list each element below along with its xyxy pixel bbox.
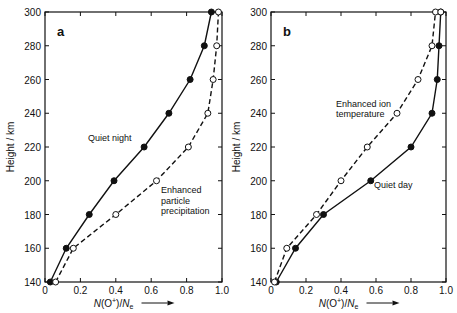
panel-a: 14016018020022024026028030000.20.40.60.8…	[5, 7, 229, 310]
x-tick-label: 0.4	[334, 285, 348, 296]
filled-marker	[187, 77, 193, 83]
open-marker	[70, 245, 76, 251]
open-marker	[185, 144, 191, 150]
open-marker	[272, 279, 278, 285]
x-tick-label: 0.2	[299, 285, 313, 296]
x-tick-label: 0.8	[404, 285, 418, 296]
annotation-enhanced-ion: Enhanced ion	[336, 99, 391, 109]
x-tick-label: 0.6	[144, 285, 158, 296]
y-axis-label: Height / km	[231, 122, 242, 173]
y-tick-label: 240	[24, 108, 41, 119]
panel-b: 14016018020022024026028030000.20.40.60.8…	[231, 7, 453, 310]
annotation-precipitation: precipitation	[161, 206, 210, 216]
filled-marker	[434, 77, 440, 83]
y-tick-label: 300	[24, 7, 41, 18]
open-marker	[113, 212, 119, 218]
arrow-head-icon	[168, 301, 175, 306]
panel-label: b	[283, 24, 291, 39]
panel-label: a	[57, 24, 65, 39]
open-marker	[205, 110, 211, 116]
y-tick-label: 280	[250, 41, 267, 52]
x-axis-label: N(O+)/Ne	[94, 297, 134, 310]
filled-marker	[293, 245, 299, 251]
x-tick-label: 0.4	[109, 285, 123, 296]
open-marker	[314, 212, 320, 218]
filled-marker	[321, 212, 327, 218]
filled-marker	[86, 212, 92, 218]
series-line	[276, 12, 441, 282]
filled-marker	[141, 144, 147, 150]
y-axis-label: Height / km	[5, 122, 16, 173]
open-marker	[214, 43, 220, 49]
series-line	[56, 12, 219, 282]
open-marker	[429, 43, 435, 49]
y-tick-label: 220	[250, 142, 267, 153]
x-tick-label: 0	[268, 285, 274, 296]
open-marker	[210, 77, 216, 83]
open-marker	[394, 110, 400, 116]
annotation-enhanced: Enhanced	[161, 185, 202, 195]
annotation-quiet-day: Quiet day	[374, 180, 413, 190]
y-tick-label: 200	[24, 176, 41, 187]
open-marker	[415, 77, 421, 83]
y-tick-label: 180	[24, 210, 41, 221]
filled-marker	[208, 9, 214, 15]
y-tick-label: 200	[250, 176, 267, 187]
y-tick-label: 180	[250, 210, 267, 221]
x-tick-label: 0.8	[180, 285, 194, 296]
chart-figure: 14016018020022024026028030000.20.40.60.8…	[0, 0, 457, 313]
open-marker	[364, 144, 370, 150]
filled-marker	[429, 110, 435, 116]
arrow-head-icon	[393, 301, 400, 306]
annotation-temperature: temperature	[336, 109, 385, 119]
filled-marker	[368, 178, 374, 184]
filled-marker	[201, 43, 207, 49]
open-marker	[53, 279, 59, 285]
open-marker	[215, 9, 221, 15]
y-tick-label: 140	[250, 277, 267, 288]
y-tick-label: 300	[250, 7, 267, 18]
filled-marker	[111, 178, 117, 184]
annotation-particle: particle	[161, 196, 190, 206]
x-axis-label: N(O+)/Ne	[319, 297, 359, 310]
x-tick-label: 0.6	[369, 285, 383, 296]
y-tick-label: 260	[24, 75, 41, 86]
filled-marker	[166, 110, 172, 116]
y-tick-label: 220	[24, 142, 41, 153]
annotation-quiet-night: Quiet night	[88, 133, 132, 143]
open-marker	[284, 245, 290, 251]
y-tick-label: 260	[250, 75, 267, 86]
y-tick-label: 160	[24, 243, 41, 254]
y-tick-label: 280	[24, 41, 41, 52]
open-marker	[154, 178, 160, 184]
y-tick-label: 240	[250, 108, 267, 119]
y-tick-label: 140	[24, 277, 41, 288]
x-tick-label: 1.0	[439, 285, 453, 296]
open-marker	[438, 9, 444, 15]
filled-marker	[63, 245, 69, 251]
y-tick-label: 160	[250, 243, 267, 254]
filled-marker	[436, 43, 442, 49]
x-tick-label: 1.0	[215, 285, 229, 296]
plot-frame	[271, 12, 446, 282]
x-tick-label: 0	[42, 285, 48, 296]
x-tick-label: 0.2	[73, 285, 87, 296]
open-marker	[338, 178, 344, 184]
filled-marker	[408, 144, 414, 150]
